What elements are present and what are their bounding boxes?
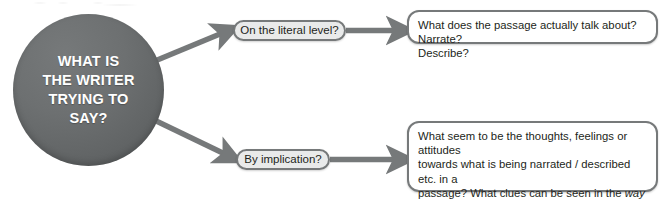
central-node-circle: WHAT IS THE WRITER TRYING TO SAY? [13, 14, 164, 166]
answer-box-implication-text: What seem to be the thoughts, feelings o… [418, 129, 647, 201]
connector-hub-to-literal-pill [150, 32, 226, 64]
connector-hub-to-implication-pill [150, 118, 229, 156]
answer-box-implication: What seem to be the thoughts, feelings o… [407, 121, 658, 192]
answer-box-literal-text: What does the passage actually talk abou… [418, 18, 647, 61]
branch-label-literal-text: On the literal level? [240, 24, 338, 37]
branch-label-implication-text: By implication? [244, 153, 321, 166]
branch-label-literal[interactable]: On the literal level? [233, 20, 346, 41]
branch-label-implication[interactable]: By implication? [236, 149, 330, 170]
diagram-canvas: WHAT IS THE WRITER TRYING TO SAY? On the… [0, 0, 662, 201]
answer-box-literal: What does the passage actually talk abou… [407, 10, 658, 44]
central-node-label: WHAT IS THE WRITER TRYING TO SAY? [36, 52, 140, 128]
